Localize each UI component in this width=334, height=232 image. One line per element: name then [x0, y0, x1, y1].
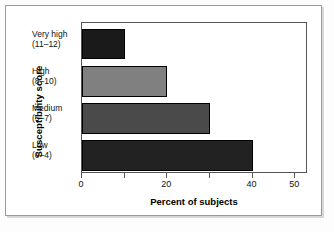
figure-canvas: Susceptibility score Very high (11–12) H… — [0, 0, 334, 232]
plot-area — [81, 22, 307, 173]
x-axis-tick-20 — [166, 173, 167, 178]
x-axis-tick-label-20: 20 — [154, 179, 178, 189]
category-label-line2: (11–12) — [32, 40, 79, 50]
bar-low — [82, 140, 253, 171]
x-axis-tick-40 — [252, 173, 253, 178]
x-axis-title: Percent of subjects — [81, 196, 307, 207]
y-axis-title-container: Susceptibility score — [14, 22, 32, 173]
x-axis-tick-30 — [209, 173, 210, 178]
y-axis-category-labels: Very high (11–12) High (8–10) Medium (5–… — [32, 22, 79, 173]
category-label-very-high: Very high (11–12) — [32, 30, 79, 49]
bar-high — [82, 66, 167, 97]
x-axis-tick-50 — [294, 173, 295, 178]
category-label-high: High (8–10) — [32, 67, 79, 86]
category-label-medium: Medium (5–7) — [32, 104, 79, 123]
category-label-line2: (5–7) — [32, 114, 79, 124]
category-label-line2: (0–4) — [32, 151, 79, 161]
bar-medium — [82, 103, 210, 134]
bar-very-high — [82, 29, 125, 59]
x-axis-tick-label-50: 50 — [282, 179, 306, 189]
category-label-low: Low (0–4) — [32, 141, 79, 160]
x-axis-tick-10 — [124, 173, 125, 178]
category-label-line2: (8–10) — [32, 77, 79, 87]
x-axis-tick-label-40: 40 — [240, 179, 264, 189]
x-axis-tick-label-0: 0 — [69, 179, 93, 189]
x-axis-tick-0 — [81, 173, 82, 178]
